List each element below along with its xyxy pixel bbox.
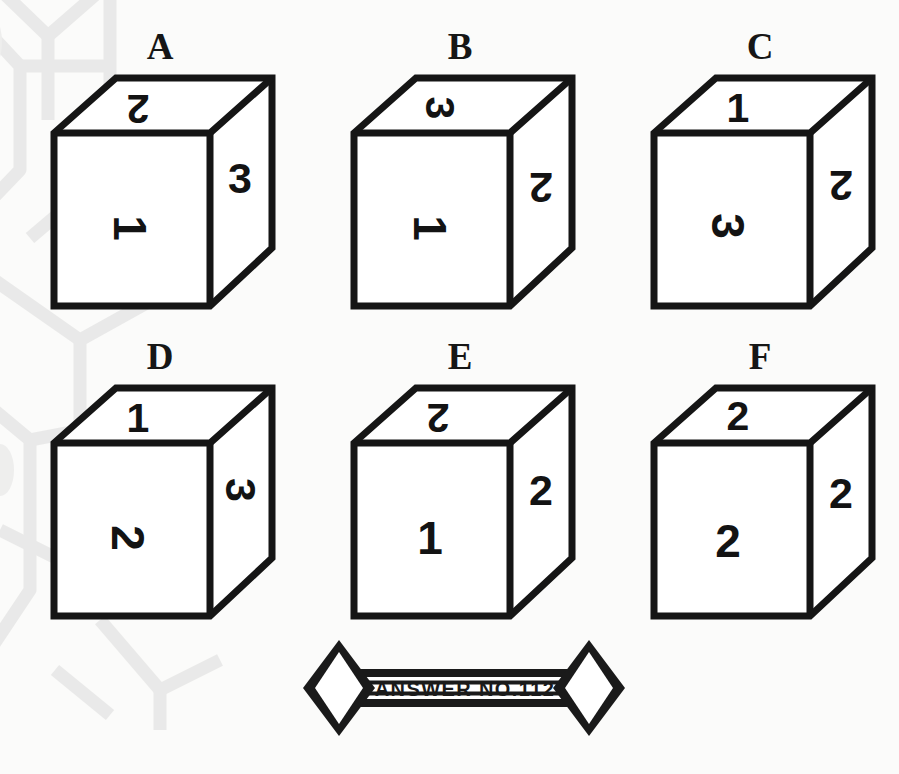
- cube-b-top-number: 3: [417, 97, 463, 120]
- cube-figure-b: 3 1 2: [310, 68, 610, 323]
- cube-b-right-number: 2: [529, 164, 553, 212]
- cube-d-front-number: 2: [102, 525, 154, 551]
- cube-label-f: F: [610, 338, 899, 375]
- answer-banner-text: ANSWER NO.112: [375, 678, 555, 700]
- cube-a-front-number: 1: [104, 215, 156, 241]
- cube-f-front-number: 2: [715, 515, 741, 567]
- cube-f-right-number: 2: [829, 469, 853, 517]
- cube-label-e: E: [310, 338, 610, 375]
- cube-c-top-number: 1: [727, 85, 750, 131]
- cube-figure-f: 2 2 2: [610, 378, 899, 633]
- cube-figure-a: 2 1 3: [10, 68, 310, 323]
- cube-c-front-number: 3: [702, 213, 754, 239]
- cube-item-d[interactable]: D 1 2 3: [10, 330, 310, 640]
- cube-item-b[interactable]: B 3 1 2: [310, 20, 610, 330]
- cube-item-c[interactable]: C 1 3 2: [610, 20, 899, 330]
- cube-item-a[interactable]: A 2 1 3: [10, 20, 310, 330]
- right-question-mark-icon: ?: [579, 670, 599, 707]
- cube-figure-e: 2 1 2: [310, 378, 610, 633]
- cube-d-right-number: 3: [217, 478, 265, 502]
- cube-label-d: D: [10, 338, 310, 375]
- cube-item-f[interactable]: F 2 2 2: [610, 330, 899, 640]
- cube-e-top-number: 2: [427, 395, 450, 441]
- cube-b-front-number: 1: [404, 215, 456, 241]
- cube-f-top-number: 2: [727, 393, 750, 439]
- cube-a-right-number: 3: [228, 154, 252, 202]
- cube-e-front-number: 1: [417, 512, 443, 564]
- cube-figure-c: 1 3 2: [610, 68, 899, 323]
- cube-figure-d: 1 2 3: [10, 378, 310, 633]
- cube-puzzle-grid: A 2 1 3 B 3 1 2 C 1 3 2: [0, 0, 899, 660]
- cube-c-right-number: 2: [829, 162, 853, 210]
- cube-e-right-number: 2: [529, 466, 553, 514]
- cube-item-e[interactable]: E 2 1 2: [310, 330, 610, 640]
- cube-label-c: C: [610, 28, 899, 65]
- cube-d-top-number: 1: [127, 395, 150, 441]
- cube-label-b: B: [310, 28, 610, 65]
- cube-a-top-number: 2: [127, 86, 150, 132]
- cube-label-a: A: [10, 28, 310, 65]
- left-question-mark-icon: ?: [329, 670, 349, 707]
- answer-banner[interactable]: ? ? ANSWER NO.112: [299, 636, 629, 740]
